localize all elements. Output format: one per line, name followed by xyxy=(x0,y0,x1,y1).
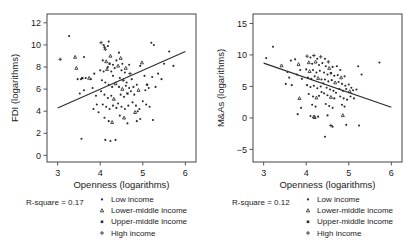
data-point-dot xyxy=(139,118,141,120)
data-point-dot xyxy=(325,103,327,105)
data-point-dot xyxy=(136,84,138,86)
y-axis-title: M&As (logarithms) xyxy=(215,49,226,127)
y-tick-label: 15 xyxy=(237,19,247,29)
data-point-dot xyxy=(124,71,126,73)
x-tick-label: 5 xyxy=(346,168,351,178)
data-point-dot xyxy=(344,85,346,87)
x-tick-label: 6 xyxy=(183,168,188,178)
data-point-dot xyxy=(301,78,303,80)
data-point-triangle xyxy=(112,97,115,100)
data-point-triangle xyxy=(329,95,332,98)
data-point-triangle xyxy=(117,64,120,67)
data-point-dot xyxy=(97,111,99,113)
data-point-dot xyxy=(361,73,363,75)
data-point-dot xyxy=(355,89,357,91)
data-point-dot xyxy=(316,87,318,89)
data-point-dot xyxy=(149,106,151,108)
legend-marker-triangle xyxy=(100,209,103,212)
y-tick-label: 0 xyxy=(242,113,247,123)
data-point-triangle xyxy=(307,61,310,64)
data-point-dot xyxy=(93,73,95,75)
data-point-triangle xyxy=(105,60,108,63)
data-point-dot xyxy=(309,86,311,88)
legend-marker-plus xyxy=(100,231,104,235)
data-point-dot xyxy=(115,59,117,61)
data-point-dot xyxy=(328,105,330,107)
data-point-dot xyxy=(332,126,334,128)
data-point-dot xyxy=(148,87,150,89)
legend-entry-label: Low income xyxy=(111,195,154,204)
data-points xyxy=(265,46,380,138)
data-point-dot xyxy=(99,69,101,71)
data-point-dot xyxy=(350,87,352,89)
data-point-dot xyxy=(107,66,109,68)
data-point-dot xyxy=(346,99,348,101)
data-point-triangle xyxy=(314,60,317,63)
data-point-dot xyxy=(143,75,145,77)
data-point-dot xyxy=(83,56,85,58)
data-point-triangle xyxy=(341,114,344,117)
y-tick-label: 10 xyxy=(237,50,247,60)
legend: Low incomeLower-middle incomeUpper-middl… xyxy=(306,195,394,238)
data-point-dot xyxy=(339,95,341,97)
data-point-dot xyxy=(110,95,112,97)
panel-mas: −50510153456Openness (logarithms)M&As (l… xyxy=(206,0,411,250)
data-point-dot xyxy=(105,106,107,108)
data-point-dot xyxy=(320,91,322,93)
data-point-triangle xyxy=(74,55,77,58)
data-point-square xyxy=(126,92,128,94)
data-point-square xyxy=(330,72,332,74)
data-point-dot xyxy=(120,69,122,71)
x-axis-title: Openness (logarithms) xyxy=(73,179,169,190)
r-square-annotation: R-square = 0.12 xyxy=(232,198,290,207)
data-point-dot xyxy=(297,113,299,115)
data-point-dot xyxy=(137,110,139,112)
data-point-square xyxy=(81,77,83,79)
data-point-dot xyxy=(324,58,326,60)
data-point-dot xyxy=(96,104,98,106)
data-point-dot xyxy=(272,46,274,48)
data-point-dot xyxy=(139,65,141,67)
data-point-dot xyxy=(90,78,92,80)
data-point-triangle xyxy=(298,97,301,100)
data-point-dot xyxy=(120,106,122,108)
data-point-dot xyxy=(68,35,70,37)
data-point-dot xyxy=(378,61,380,63)
data-point-dot xyxy=(318,64,320,66)
data-point-plus xyxy=(58,57,62,61)
data-point-dot xyxy=(332,90,334,92)
figure-root: 0246810123456Openness (logarithms)FDI (l… xyxy=(0,0,411,250)
data-point-dot xyxy=(336,65,338,67)
data-point-plus xyxy=(99,41,103,45)
data-point-dot xyxy=(120,94,122,96)
data-point-dot xyxy=(131,78,133,80)
data-point-dot xyxy=(327,80,329,82)
legend-entry-label: High income xyxy=(111,229,156,238)
data-point-dot xyxy=(343,106,345,108)
data-point-dot xyxy=(128,87,130,89)
data-point-dot xyxy=(118,86,120,88)
data-point-triangle xyxy=(315,96,318,99)
data-point-dot xyxy=(150,42,152,44)
x-tick-label: 5 xyxy=(140,168,145,178)
data-point-dot xyxy=(111,86,113,88)
data-point-dot xyxy=(83,89,85,91)
data-point-dot xyxy=(138,108,140,110)
plot-area-fdi: 0246810123456Openness (logarithms)FDI (l… xyxy=(9,14,196,238)
data-point-triangle xyxy=(137,89,140,92)
data-point-dot xyxy=(114,139,116,141)
data-point-dot xyxy=(117,102,119,104)
data-point-dot xyxy=(300,107,302,109)
data-point-dot xyxy=(333,97,335,99)
data-point-dot xyxy=(110,70,112,72)
data-point-dot xyxy=(80,138,82,140)
legend-marker-triangle xyxy=(306,209,309,212)
data-point-dot xyxy=(341,83,343,85)
y-tick-label: 4 xyxy=(36,106,41,116)
data-point-dot xyxy=(79,92,81,94)
data-point-dot xyxy=(311,104,313,106)
data-point-dot xyxy=(326,87,328,89)
data-point-dot xyxy=(126,81,128,83)
data-point-dot xyxy=(109,140,111,142)
data-point-dot xyxy=(133,94,135,96)
